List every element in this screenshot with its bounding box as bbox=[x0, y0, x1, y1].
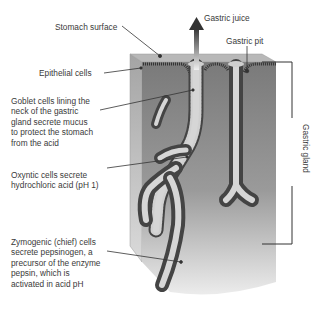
label-gastric-juice: Gastric juice bbox=[204, 13, 250, 23]
stomach-surface-top bbox=[130, 54, 276, 62]
label-oxyntic-cells: Oxyntic cells secrete hydrochloric acid … bbox=[11, 170, 99, 191]
tissue-side-face bbox=[130, 54, 142, 262]
label-goblet-cells: Goblet cells lining the neck of the gast… bbox=[11, 96, 93, 148]
label-epithelial-cells: Epithelial cells bbox=[39, 68, 92, 78]
label-zymogenic-cells: Zymogenic (chief) cells secrete pepsinog… bbox=[11, 237, 100, 289]
label-gastric-gland: Gastric gland bbox=[301, 124, 311, 173]
label-stomach-surface: Stomach surface bbox=[55, 22, 117, 32]
label-gastric-pit: Gastric pit bbox=[226, 36, 263, 46]
